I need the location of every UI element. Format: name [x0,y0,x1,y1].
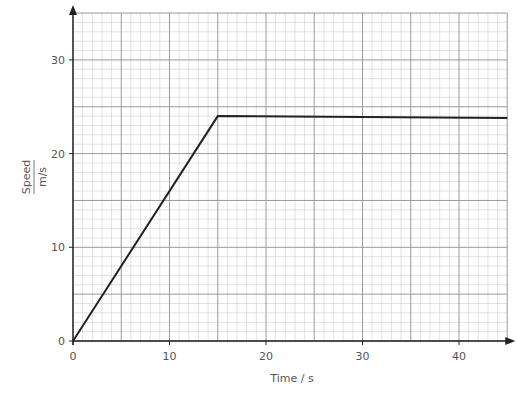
x-tick-label: 0 [70,350,77,363]
tick-labels: 0102030400102030 [51,54,466,363]
y-axis-unit: m/s [36,167,49,187]
x-tick-label: 40 [452,350,466,363]
y-axis-label: Speed [20,160,33,194]
y-tick-label: 30 [51,54,65,67]
y-axis-title: Speed m/s [20,160,49,194]
y-tick-label: 10 [51,241,65,254]
x-axis-title: Time / s [269,372,314,385]
grid-major [73,13,507,341]
y-axis-arrow-icon [69,5,77,15]
x-axis-arrow-icon [505,337,515,345]
grid-minor [73,13,507,341]
x-tick-label: 10 [163,350,177,363]
x-tick-label: 20 [259,350,273,363]
y-tick-label: 20 [51,148,65,161]
x-tick-label: 30 [356,350,370,363]
y-tick-label: 0 [58,335,65,348]
speed-time-graph: 0102030400102030 Time / s Speed m/s [0,0,517,399]
